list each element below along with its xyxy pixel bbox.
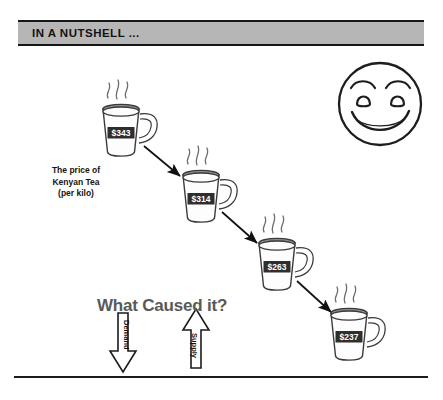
infographic-canvas: IN A NUTSHELL ... <box>0 0 443 400</box>
illustration-layer: $343 $314 $263 $237 <box>0 0 443 400</box>
bottom-divider <box>14 376 428 378</box>
tea-mug-icon <box>183 146 237 222</box>
price-label: $263 <box>268 262 287 272</box>
tea-mug-icon <box>103 80 157 156</box>
demand-label: Demand <box>122 320 131 350</box>
tea-mug-icon <box>259 214 313 290</box>
tea-mug-icon <box>331 284 385 360</box>
smiley-face-icon <box>339 63 421 145</box>
price-label: $237 <box>340 332 359 342</box>
price-label: $343 <box>112 128 131 138</box>
supply-label: Supply <box>190 333 199 358</box>
question-heading: What Caused it? <box>95 296 229 316</box>
caption-line-1: The price of <box>26 165 126 177</box>
trend-arrows <box>144 146 331 312</box>
price-caption: The price of Kenyan Tea (per kilo) <box>26 165 126 200</box>
caption-line-2: Kenyan Tea <box>26 177 126 189</box>
price-label: $314 <box>192 194 211 204</box>
caption-line-3: (per kilo) <box>26 188 126 200</box>
